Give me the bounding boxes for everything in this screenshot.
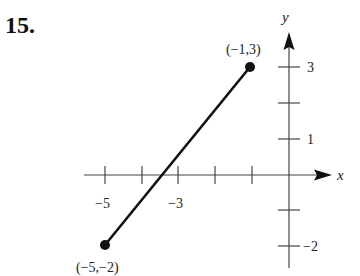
coordinate-plot: x y −5 −3 3 1 −2 (−5,−2) (−1,3): [0, 0, 360, 276]
endpoint-dot-end: [245, 62, 255, 72]
endpoint-dot-start: [100, 240, 110, 250]
y-tick-label-3: 3: [307, 60, 314, 75]
endpoint-label-end: (−1,3): [226, 42, 261, 58]
endpoint-label-start: (−5,−2): [76, 260, 119, 276]
y-axis-label: y: [280, 9, 289, 25]
line-segment: [105, 67, 250, 245]
x-axis-label: x: [336, 167, 344, 183]
x-tick-label-neg3: −3: [168, 196, 183, 211]
y-tick-label-1: 1: [307, 132, 314, 147]
x-axis: [84, 166, 332, 184]
y-axis: [278, 32, 300, 268]
x-tick-label-neg5: −5: [95, 196, 110, 211]
y-tick-label-neg2: −2: [303, 239, 318, 254]
